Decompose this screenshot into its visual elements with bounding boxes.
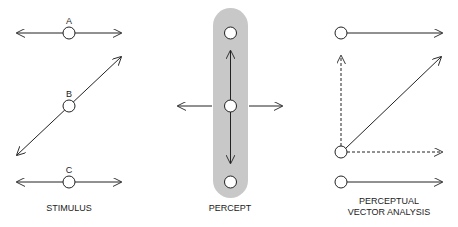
- stimulus-title: STIMULUS: [46, 203, 92, 213]
- bottom-dot: [225, 176, 237, 188]
- middle-dot: [335, 146, 347, 158]
- top-dot: [225, 27, 237, 39]
- analysis-panel: [335, 27, 442, 188]
- label-b: B: [66, 89, 72, 99]
- stimulus-panel: [17, 27, 121, 188]
- percept-title: PERCEPT: [209, 203, 252, 213]
- analysis-title-1: PERCEPTUAL: [359, 196, 419, 206]
- motion-diagram: A B C STIMULUS PERCEPT PERCEPTUAL VECTOR…: [0, 0, 458, 227]
- middle-dot: [225, 100, 237, 112]
- analysis-title-2: VECTOR ANALYSIS: [348, 207, 431, 217]
- label-a: A: [66, 16, 72, 26]
- percept-panel: [178, 8, 282, 198]
- top-dot: [335, 27, 347, 39]
- dot-a: [63, 27, 75, 39]
- diagonal-vector: [345, 57, 441, 149]
- label-c: C: [66, 165, 73, 175]
- dot-b: [63, 100, 75, 112]
- bottom-dot: [335, 176, 347, 188]
- dot-c: [63, 176, 75, 188]
